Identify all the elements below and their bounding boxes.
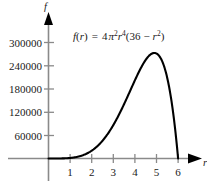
formula-const: 36 — [129, 30, 141, 42]
x-tick-label-5: 5 — [154, 166, 160, 178]
y-tick-label-60000: 60000 — [15, 130, 43, 142]
y-tick-label-120000: 120000 — [9, 106, 43, 118]
x-tick-label-6: 6 — [175, 166, 181, 178]
function-plot-figure: 300000 240000 180000 120000 60000 1 2 3 … — [0, 0, 207, 184]
function-curve — [49, 53, 179, 159]
x-axis-label: r — [203, 157, 207, 168]
formula-coef: 4 — [102, 30, 108, 42]
formula-paren-close: ) — [161, 30, 165, 43]
x-tick-label-1: 1 — [67, 166, 73, 178]
formula-equals: = — [92, 30, 98, 42]
formula-minus: − — [143, 30, 149, 42]
formula-annotation: f(r)=4π2r4(36−r2) — [73, 29, 165, 44]
y-axis-arrow-icon — [44, 12, 53, 25]
plot-svg: 300000 240000 180000 120000 60000 1 2 3 … — [0, 0, 207, 184]
formula-close: ) — [84, 30, 88, 43]
y-tick-label-300000: 300000 — [9, 37, 43, 49]
x-axis-arrow-icon — [188, 153, 202, 163]
y-tick-label-240000: 240000 — [9, 60, 43, 72]
y-tick-label-180000: 180000 — [9, 83, 43, 95]
x-tick-label-4: 4 — [132, 166, 138, 178]
x-tick-label-3: 3 — [111, 166, 117, 178]
x-tick-label-2: 2 — [89, 166, 95, 178]
y-axis-label: f — [44, 1, 49, 12]
